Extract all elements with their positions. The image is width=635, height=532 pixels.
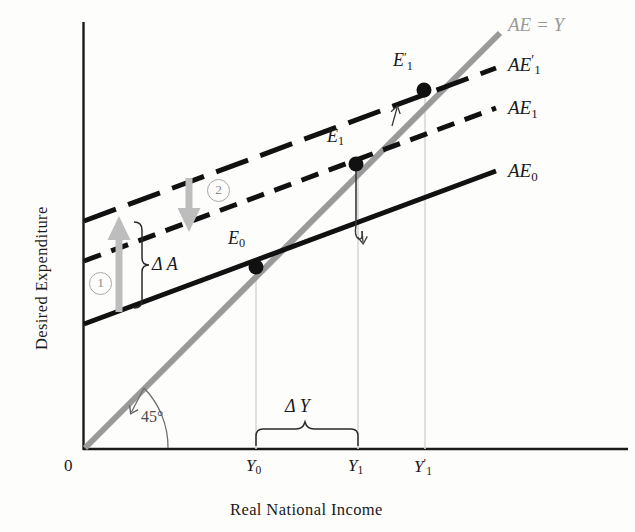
curve-label-ae-1-main: AE bbox=[508, 97, 531, 118]
x-tick-label-y0: Y0 bbox=[246, 456, 261, 477]
curve-label-ae-1-sub: 1 bbox=[531, 106, 537, 121]
x-tick-y1-prime-sub: 1 bbox=[426, 465, 432, 478]
shift-up-arrow bbox=[108, 216, 131, 312]
x-tick-label-y1: Y1 bbox=[348, 456, 363, 477]
point-label-e1-prime-sub: 1 bbox=[407, 59, 413, 73]
step-2-badge: 2 bbox=[207, 179, 230, 202]
e1-to-ae0-arrow bbox=[355, 168, 363, 242]
y-axis-title: Desired Expenditure bbox=[32, 206, 52, 350]
point-label-e0-main: E bbox=[228, 228, 239, 248]
ae-1-prime-line bbox=[84, 68, 496, 221]
curve-label-ae-1-prime: AE′1 bbox=[508, 53, 541, 78]
curve-label-ae-1-prime-sub: 1 bbox=[534, 62, 540, 77]
x-axis-title: Real National Income bbox=[230, 500, 383, 520]
curve-label-ae-equals-y: AE = Y bbox=[508, 14, 564, 36]
delta-y-brace bbox=[256, 422, 358, 446]
point-label-e1-main: E bbox=[327, 126, 338, 146]
ae-0-line bbox=[84, 171, 496, 324]
equilibrium-dots bbox=[249, 83, 432, 275]
curve-label-ae-0-main: AE bbox=[508, 160, 531, 181]
curve-label-ae-1-prime-main: AE bbox=[508, 54, 531, 75]
point-label-e1: E1 bbox=[327, 126, 344, 149]
delta-a-label: Δ A bbox=[152, 254, 178, 275]
e1prime-tick-arrow bbox=[392, 108, 397, 126]
delta-y-label: Δ Y bbox=[285, 396, 310, 417]
curve-label-ae-1: AE1 bbox=[508, 97, 538, 122]
diagram-canvas bbox=[0, 0, 635, 532]
point-label-e1-prime-main: E bbox=[393, 50, 404, 70]
angle-45-label: 45° bbox=[141, 408, 163, 426]
point-label-e0-sub: 0 bbox=[239, 236, 245, 250]
step-1-badge: 1 bbox=[89, 272, 112, 295]
ae-1-line bbox=[84, 108, 496, 261]
x-tick-y0-sub: 0 bbox=[255, 464, 261, 477]
equilibrium-e1-dot bbox=[349, 157, 364, 172]
ae-y-diagram: Desired Expenditure Real National Income… bbox=[0, 0, 635, 532]
ae-equals-y-line bbox=[85, 33, 500, 448]
x-tick-label-y1-prime: Y′1 bbox=[414, 456, 432, 478]
equilibrium-e1-prime-dot bbox=[417, 83, 432, 98]
x-tick-y1-sub: 1 bbox=[357, 464, 363, 477]
point-label-e0: E0 bbox=[228, 228, 245, 251]
origin-label: 0 bbox=[64, 456, 73, 476]
curve-label-ae-0: AE0 bbox=[508, 160, 538, 185]
point-label-e1-prime: E′1 bbox=[393, 49, 413, 74]
equilibrium-e0-dot bbox=[249, 260, 264, 275]
curve-label-ae-0-sub: 0 bbox=[531, 169, 537, 184]
point-label-e1-sub: 1 bbox=[338, 134, 344, 148]
delta-a-brace bbox=[134, 222, 149, 308]
